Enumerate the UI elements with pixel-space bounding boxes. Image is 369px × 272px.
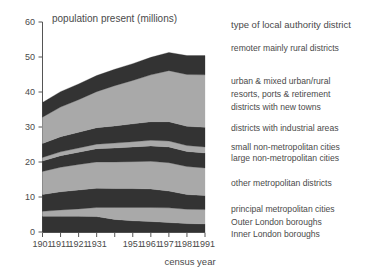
x-tick-labels: 190119111921193119511961197119811991	[32, 239, 215, 249]
legend-item-urban-mixed-urban-rural: urban & mixed urban/rural	[231, 76, 330, 86]
y-tick-label-40: 40	[25, 87, 35, 97]
legend-item-small-non-metropolitan-cities: small non-metropolitan cities	[231, 142, 340, 152]
x-tick-label-1931: 1931	[87, 239, 107, 249]
plot-title: population present (millions)	[52, 13, 177, 24]
y-tick-label-30: 30	[25, 122, 35, 132]
legend-item-outer-london-boroughs: Outer London boroughs	[231, 217, 322, 227]
legend-item-districts-with-new-towns: districts with new towns	[231, 102, 321, 112]
y-tick-label-0: 0	[30, 227, 35, 237]
legend-item-other-metropolitan-districts: other metropolitan districts	[231, 178, 332, 188]
legend-item-inner-london-boroughs: Inner London boroughs	[231, 229, 320, 239]
y-tick-label-20: 20	[25, 157, 35, 167]
legend-item-large-non-metropolitan-cities: large non-metropolitan cities	[231, 153, 339, 163]
x-tick-label-1951: 1951	[123, 239, 143, 249]
x-tick-label-1981: 1981	[177, 239, 197, 249]
x-axis-title: census year	[164, 256, 215, 267]
legend-item-remoter-mainly-rural-districts: remoter mainly rural districts	[231, 43, 339, 53]
y-tick-label-10: 10	[25, 192, 35, 202]
x-tick-label-1921: 1921	[69, 239, 89, 249]
legend-heading: type of local authority district	[231, 19, 351, 30]
x-tick-label-1911: 1911	[51, 239, 70, 249]
x-tick-label-1961: 1961	[141, 239, 161, 249]
x-tick-label-1991: 1991	[195, 239, 215, 249]
legend-item-resorts-ports-retirement: resorts, ports & retirement	[231, 89, 331, 99]
y-tick-label-60: 60	[25, 17, 35, 27]
chart-svg: 0102030405060 19011911192119311951196119…	[0, 0, 369, 272]
legend-item-principal-metropolitan-cities: principal metropolitan cities	[231, 204, 335, 214]
legend-item-districts-with-industrial-areas: districts with industrial areas	[231, 123, 338, 133]
y-tick-label-50: 50	[25, 52, 35, 62]
x-tick-label-1901: 1901	[32, 239, 52, 249]
x-tick-label-1971: 1971	[159, 239, 179, 249]
stacked-area-chart-figure: 0102030405060 19011911192119311951196119…	[0, 0, 369, 272]
